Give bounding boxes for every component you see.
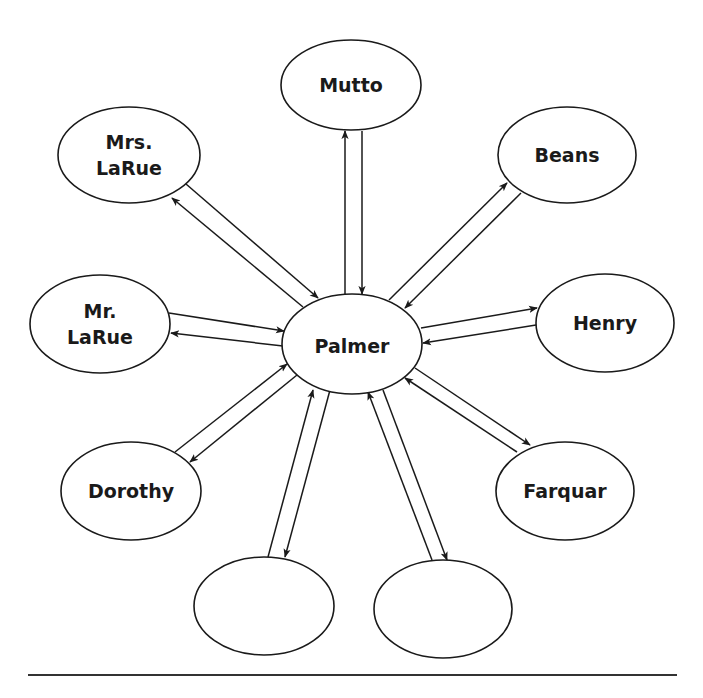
arrow-line	[285, 390, 330, 557]
edge-palmer-blank-2	[368, 390, 447, 560]
node-mr-larue: Mr.LaRue	[30, 275, 170, 373]
node-mrs-larue: Mrs.LaRue	[58, 107, 200, 203]
node-ellipse	[194, 557, 334, 655]
node-label: LaRue	[96, 157, 162, 179]
node-label: Farquar	[523, 480, 607, 502]
edge-palmer-dorothy	[175, 364, 297, 462]
node-blank-1	[194, 557, 334, 655]
arrow-line	[172, 198, 303, 307]
node-label: Palmer	[315, 335, 390, 357]
node-ellipse	[58, 107, 200, 203]
node-palmer: Palmer	[282, 294, 422, 394]
arrow-line	[186, 184, 318, 298]
node-label: Mrs.	[106, 131, 153, 153]
node-ellipse	[374, 560, 512, 658]
arrow-line	[190, 375, 297, 462]
node-ellipse	[30, 275, 170, 373]
arrow-line	[415, 368, 530, 445]
nodes-layer: PalmerMuttoMrs.LaRueBeansMr.LaRueHenryDo…	[30, 40, 674, 658]
arrow-line	[405, 193, 521, 308]
node-beans: Beans	[498, 107, 636, 203]
arrow-line	[383, 390, 447, 560]
node-farquar: Farquar	[496, 442, 634, 540]
edge-palmer-mr-larue	[169, 313, 284, 346]
relationship-diagram: PalmerMuttoMrs.LaRueBeansMr.LaRueHenryDo…	[0, 0, 703, 698]
node-label: LaRue	[67, 326, 133, 348]
horizontal-rule	[28, 674, 677, 676]
edge-palmer-blank-1	[268, 390, 330, 557]
arrow-line	[405, 378, 517, 452]
node-blank-2	[374, 560, 512, 658]
node-mutto: Mutto	[281, 40, 421, 130]
arrow-line	[421, 308, 537, 328]
edge-palmer-farquar	[405, 368, 530, 452]
arrow-line	[389, 183, 507, 300]
arrow-line	[368, 392, 432, 560]
arrow-line	[171, 333, 283, 346]
arrow-line	[175, 364, 287, 452]
edge-palmer-beans	[389, 183, 521, 308]
node-label: Henry	[573, 312, 638, 334]
node-dorothy: Dorothy	[61, 442, 201, 540]
edge-palmer-henry	[421, 308, 537, 343]
arrow-line	[268, 390, 313, 557]
arrow-line	[169, 313, 284, 331]
node-henry: Henry	[536, 274, 674, 372]
node-label: Mutto	[319, 74, 383, 96]
edge-palmer-mutto	[345, 131, 362, 295]
node-label: Dorothy	[88, 480, 175, 502]
arrow-line	[423, 325, 536, 343]
edge-palmer-mrs-larue	[172, 184, 318, 307]
node-label: Mr.	[84, 300, 117, 322]
node-label: Beans	[534, 144, 599, 166]
